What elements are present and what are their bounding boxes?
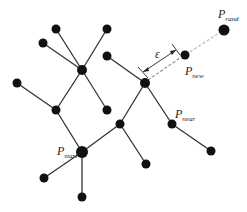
node xyxy=(77,65,87,75)
rand-direction-dashed xyxy=(190,31,222,52)
step-label: ε xyxy=(155,47,160,61)
label-rand: Prand xyxy=(217,7,239,23)
edge xyxy=(17,83,56,110)
node xyxy=(78,193,87,202)
edge xyxy=(172,124,211,151)
edge xyxy=(120,83,145,124)
node xyxy=(40,174,49,183)
node xyxy=(52,106,61,115)
edge xyxy=(107,56,145,83)
edge xyxy=(82,29,107,70)
node xyxy=(142,160,151,169)
label-near: Pnear xyxy=(174,107,195,123)
node-rand xyxy=(219,25,230,36)
node-start xyxy=(76,146,88,158)
node xyxy=(116,120,125,129)
edge xyxy=(120,124,146,164)
node-new xyxy=(181,51,190,60)
node xyxy=(207,147,216,156)
edge xyxy=(56,29,82,70)
node xyxy=(39,39,48,48)
node xyxy=(52,25,61,34)
rrt-diagram: ε Pstart Pnear Pnew Prand xyxy=(0,0,247,212)
node xyxy=(103,52,112,61)
edge xyxy=(43,43,82,70)
tree-nodes xyxy=(13,25,230,202)
label-new: Pnew xyxy=(184,64,204,80)
node xyxy=(103,25,112,34)
edge xyxy=(82,70,107,110)
node-near-hub xyxy=(140,78,150,88)
new-edge-dashed xyxy=(148,58,180,80)
edge xyxy=(145,83,172,124)
node xyxy=(13,79,22,88)
node xyxy=(103,106,112,115)
label-start: Pstart xyxy=(56,144,78,160)
edge xyxy=(56,70,82,110)
edge xyxy=(82,124,120,152)
